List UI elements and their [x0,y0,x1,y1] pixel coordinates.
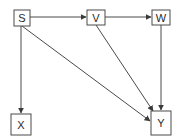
node-v: V [87,10,105,25]
node-s: S [14,10,30,26]
node-s-label: S [18,12,25,24]
node-w: W [152,10,170,25]
node-y: Y [151,111,171,135]
causal-diagram: S V W X Y [0,0,179,140]
edge-s-to-y [22,26,150,121]
node-y-label: Y [157,117,165,129]
node-v-label: V [92,12,100,24]
edges [21,17,161,121]
node-w-label: W [156,12,167,24]
node-x-label: X [17,119,25,131]
node-x: X [11,114,31,135]
edge-v-to-y [96,25,153,111]
